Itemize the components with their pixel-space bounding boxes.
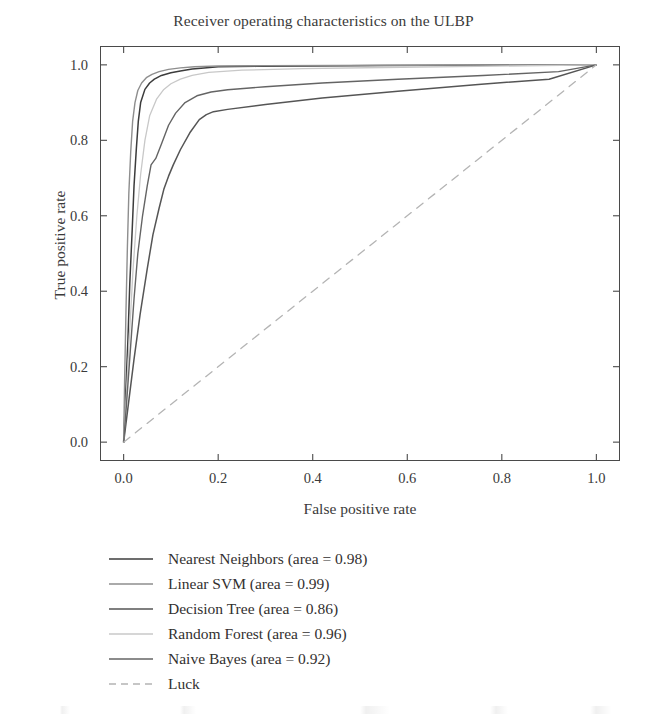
legend-item-linear-svm[interactable]: Linear SVM (area = 0.99) bbox=[108, 571, 568, 596]
chart-legend: Nearest Neighbors (area = 0.98)Linear SV… bbox=[108, 546, 568, 696]
legend-line-icon bbox=[108, 577, 154, 591]
legend-label: Nearest Neighbors (area = 0.98) bbox=[168, 550, 367, 568]
legend-line-icon bbox=[108, 652, 154, 666]
x-tick-label: 0.8 bbox=[493, 470, 511, 487]
legend-label: Random Forest (area = 0.96) bbox=[168, 625, 347, 643]
roc-curves bbox=[124, 65, 597, 442]
legend-line-icon bbox=[108, 627, 154, 641]
legend-label: Luck bbox=[168, 675, 200, 693]
legend-label: Naive Bayes (area = 0.92) bbox=[168, 650, 330, 668]
legend-item-luck[interactable]: Luck bbox=[108, 671, 568, 696]
plot-area bbox=[100, 46, 620, 461]
x-tick-label: 0.6 bbox=[398, 470, 416, 487]
legend-line-icon bbox=[108, 602, 154, 616]
legend-item-random-forest[interactable]: Random Forest (area = 0.96) bbox=[108, 621, 568, 646]
roc-curve-luck bbox=[124, 65, 597, 442]
x-tick-label: 0.2 bbox=[209, 470, 227, 487]
x-tick-label: 0.0 bbox=[115, 470, 133, 487]
legend-line-icon bbox=[108, 677, 154, 691]
plot-canvas bbox=[100, 46, 620, 461]
legend-label: Decision Tree (area = 0.86) bbox=[168, 600, 338, 618]
x-axis-label: False positive rate bbox=[100, 500, 620, 518]
legend-item-naive-bayes[interactable]: Naive Bayes (area = 0.92) bbox=[108, 646, 568, 671]
scan-artifact bbox=[60, 706, 620, 714]
chart-title: Receiver operating characteristics on th… bbox=[0, 12, 647, 30]
legend-item-nearest-neighbors[interactable]: Nearest Neighbors (area = 0.98) bbox=[108, 546, 568, 571]
legend-line-icon bbox=[108, 552, 154, 566]
legend-label: Linear SVM (area = 0.99) bbox=[168, 575, 330, 593]
x-tick-label: 1.0 bbox=[587, 470, 605, 487]
x-tick-label: 0.4 bbox=[304, 470, 322, 487]
legend-item-decision-tree[interactable]: Decision Tree (area = 0.86) bbox=[108, 596, 568, 621]
roc-figure: Receiver operating characteristics on th… bbox=[0, 0, 647, 723]
y-axis-label: True positive rate bbox=[51, 38, 69, 453]
